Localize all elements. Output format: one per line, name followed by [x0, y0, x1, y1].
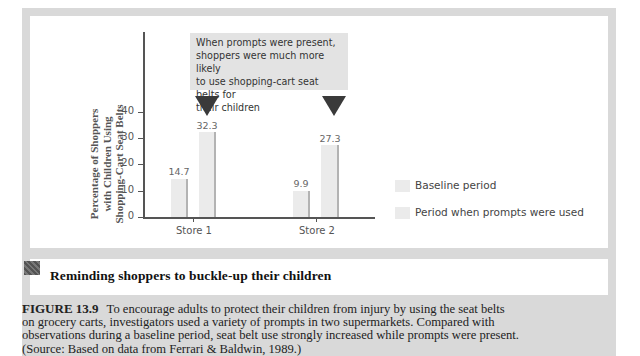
y-tick-label: 40 — [114, 105, 134, 116]
bar-store2-prompts — [321, 145, 339, 217]
annotation-callout: When prompts were present, shoppers were… — [190, 33, 348, 90]
figure-number: FIGURE 13.9 — [22, 301, 99, 316]
y-axis-label-line: Percentage of Shoppers — [88, 84, 101, 244]
caption-line: FIGURE 13.9To encourage adults to protec… — [22, 302, 602, 316]
x-axis — [143, 217, 375, 219]
y-tick-label: 0 — [114, 210, 134, 221]
y-tick — [138, 112, 143, 113]
annotation-line: shoppers were much more likely — [196, 49, 342, 75]
y-tick-label: 20 — [114, 157, 134, 168]
x-tick — [193, 218, 194, 222]
legend-label-baseline: Baseline period — [415, 179, 496, 191]
bar-value-label: 32.3 — [192, 120, 222, 131]
y-tick — [138, 191, 143, 192]
figure-thumbnail-icon — [24, 261, 40, 275]
down-arrow-icon — [195, 96, 219, 116]
bar-value-label: 9.9 — [286, 178, 316, 189]
caption-line: observations during a baseline period, s… — [22, 329, 602, 342]
y-tick — [138, 217, 143, 218]
x-category-label: Store 2 — [287, 225, 347, 236]
annotation-line: When prompts were present, — [196, 36, 342, 49]
y-tick — [138, 138, 143, 139]
y-axis — [143, 32, 145, 218]
bar-store1-baseline — [171, 179, 188, 217]
y-tick — [138, 164, 143, 165]
caption-text: To encourage adults to protect their chi… — [107, 302, 505, 316]
bar-value-label: 27.3 — [315, 133, 345, 144]
y-axis-label-line: with Children Using — [101, 84, 114, 244]
caption-line: (Source: Based on data from Ferrari & Ba… — [22, 343, 602, 356]
y-tick-label: 10 — [114, 184, 134, 195]
figure-caption: FIGURE 13.9To encourage adults to protec… — [22, 302, 602, 356]
y-tick-label: 30 — [114, 131, 134, 142]
figure-title: Reminding shoppers to buckle-up their ch… — [50, 268, 331, 284]
legend-swatch-prompts — [395, 207, 410, 219]
x-category-label: Store 1 — [164, 225, 224, 236]
legend-swatch-baseline — [395, 180, 410, 192]
bar-store1-prompts — [199, 132, 216, 217]
bar-value-label: 14.7 — [164, 166, 194, 177]
x-tick — [316, 218, 317, 222]
legend-label-prompts: Period when prompts were used — [415, 206, 584, 218]
bar-store2-baseline — [293, 191, 310, 217]
down-arrow-icon — [322, 96, 346, 116]
